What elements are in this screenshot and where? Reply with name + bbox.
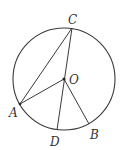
segment-ac xyxy=(20,28,72,104)
label-c: C xyxy=(68,13,77,27)
label-d: D xyxy=(49,135,60,149)
label-b: B xyxy=(89,128,99,142)
point-a-dot xyxy=(19,103,22,106)
label-a: A xyxy=(8,106,18,120)
point-o-dot xyxy=(63,78,66,81)
geometry-diagram: C O A D B xyxy=(0,0,124,150)
segment-ao xyxy=(20,79,64,104)
label-o: O xyxy=(69,73,79,87)
